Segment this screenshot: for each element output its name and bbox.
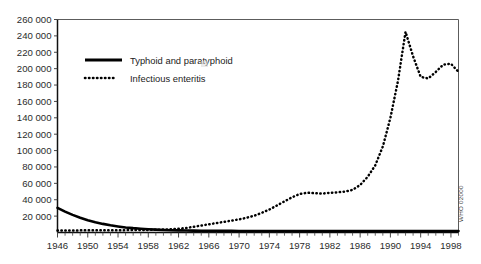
y-tick-label: 60 000 <box>22 178 51 189</box>
x-tick-label: 1962 <box>168 240 189 251</box>
scan-artifact-speck <box>201 61 208 67</box>
x-tick-label: 1954 <box>107 240 129 251</box>
y-tick-label: 20 000 <box>22 211 51 222</box>
x-tick-label: 1978 <box>289 240 310 251</box>
x-tick-label: 1946 <box>47 240 68 251</box>
chart-svg: 260 000240 000220 000200 000180 000160 0… <box>0 0 481 264</box>
x-tick-label: 1998 <box>440 240 461 251</box>
y-tick-label: 80 000 <box>22 161 51 172</box>
x-tick-label: 1994 <box>410 240 432 251</box>
x-tick-label: 1970 <box>228 240 249 251</box>
x-tick-label: 1990 <box>380 240 401 251</box>
chart-figure: 260 000240 000220 000200 000180 000160 0… <box>0 0 481 264</box>
x-tick-label: 1974 <box>259 240 281 251</box>
who-credit-label: WHO 02000 <box>457 185 464 222</box>
y-tick-label: 160 000 <box>17 96 52 107</box>
y-tick-label: 220 000 <box>17 47 52 58</box>
y-tick-label: 120 000 <box>17 129 52 140</box>
y-tick-label: 40 000 <box>22 194 51 205</box>
legend-label-infectious-enteritis: Infectious enteritis <box>130 73 206 84</box>
chart-background <box>0 0 481 264</box>
x-tick-label: 1950 <box>77 240 98 251</box>
y-tick-label: 260 000 <box>17 14 52 25</box>
who-credit: WHO 02000 <box>457 185 464 222</box>
x-tick-label: 1982 <box>319 240 340 251</box>
x-tick-label: 1966 <box>198 240 219 251</box>
y-tick-label: 180 000 <box>17 79 52 90</box>
y-tick-label: 140 000 <box>17 112 52 123</box>
y-tick-label: 200 000 <box>17 63 52 74</box>
y-tick-label: 240 000 <box>17 30 52 41</box>
legend-label-typhoid-and-paratyphoid: Typhoid and paratyphoid <box>130 55 233 66</box>
y-tick-label: 100 000 <box>17 145 52 156</box>
x-tick-label: 1986 <box>349 240 370 251</box>
x-tick-label: 1958 <box>138 240 159 251</box>
